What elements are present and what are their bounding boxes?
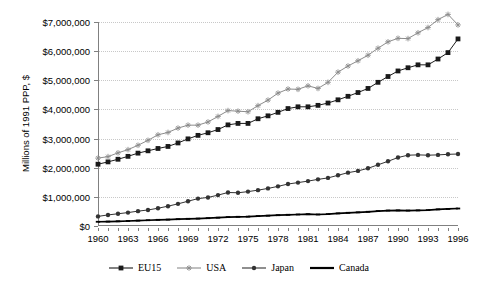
- data-point-marker: [406, 153, 410, 157]
- data-point-marker: [365, 52, 371, 58]
- data-point-marker: [286, 214, 290, 216]
- data-point-marker: [266, 113, 271, 118]
- x-axis-tick-mark: [258, 228, 259, 231]
- data-point-marker: [156, 146, 161, 151]
- data-point-marker: [185, 122, 191, 128]
- data-point-marker: [295, 87, 301, 93]
- data-point-marker: [325, 80, 331, 86]
- x-axis-tick-mark: [218, 228, 219, 231]
- data-point-marker: [306, 104, 311, 109]
- x-axis-tick-mark: [378, 228, 379, 231]
- x-axis-tick-mark: [368, 228, 369, 231]
- data-point-marker: [315, 86, 321, 92]
- x-axis-tick-label: 1987: [357, 233, 378, 244]
- data-point-marker: [405, 36, 411, 42]
- x-axis-tick-mark: [338, 228, 339, 231]
- data-point-marker: [316, 214, 320, 216]
- data-point-marker: [176, 202, 180, 206]
- legend-item-japan[interactable]: Japan: [241, 262, 294, 273]
- x-axis-tick-mark: [358, 228, 359, 231]
- data-point-marker: [320, 267, 324, 269]
- data-point-marker: [305, 83, 311, 89]
- data-point-marker: [235, 108, 241, 114]
- data-point-marker: [356, 169, 360, 173]
- y-axis-tick-label: $6,000,000: [42, 46, 90, 57]
- series-line: [98, 39, 458, 164]
- x-axis-tick-label: 1966: [147, 233, 168, 244]
- data-point-marker: [96, 214, 100, 218]
- x-axis-tick-mark: [408, 228, 409, 231]
- y-axis-tick-label: $5,000,000: [42, 75, 90, 86]
- data-point-marker: [126, 220, 130, 222]
- data-point-marker: [245, 109, 251, 115]
- data-point-marker: [236, 216, 240, 218]
- data-point-marker: [186, 136, 191, 141]
- x-axis-tick-mark: [328, 228, 329, 231]
- data-point-marker: [116, 212, 120, 216]
- data-point-marker: [395, 36, 401, 42]
- data-point-marker: [119, 265, 124, 270]
- data-point-marker: [326, 176, 330, 180]
- data-point-marker: [146, 148, 151, 153]
- data-point-marker: [145, 138, 151, 144]
- x-axis-tick-mark: [418, 228, 419, 231]
- data-point-marker: [406, 210, 410, 212]
- x-axis-tick-mark: [288, 228, 289, 231]
- x-axis-tick-mark: [248, 228, 249, 231]
- data-point-marker: [146, 208, 150, 212]
- legend-item-eu15[interactable]: EU15: [108, 262, 161, 273]
- data-point-marker: [426, 209, 430, 211]
- data-point-marker: [236, 121, 241, 126]
- data-point-marker: [275, 90, 281, 96]
- x-axis-tick-mark: [128, 228, 129, 231]
- data-point-marker: [386, 159, 390, 163]
- data-point-marker: [346, 170, 350, 174]
- data-point-marker: [446, 152, 450, 156]
- legend-item-usa[interactable]: USA: [176, 262, 226, 273]
- x-axis-tick-mark: [178, 228, 179, 231]
- x-axis-tick-mark: [228, 228, 229, 231]
- data-point-marker: [276, 214, 280, 216]
- x-axis-tick-label: 1969: [177, 233, 198, 244]
- chart-container: Millions of 1991 PPP, $ $0$1,000,000$2,0…: [0, 0, 477, 294]
- data-point-marker: [366, 86, 371, 91]
- legend-swatch-circle-icon: [241, 263, 267, 273]
- data-point-marker: [105, 154, 111, 160]
- data-point-marker: [285, 86, 291, 92]
- data-point-marker: [186, 199, 190, 203]
- data-point-marker: [336, 213, 340, 215]
- y-axis-tick-mark: [94, 226, 98, 227]
- data-point-marker: [126, 154, 131, 159]
- data-point-marker: [116, 157, 121, 162]
- data-point-marker: [155, 132, 161, 138]
- x-axis-tick-mark: [388, 228, 389, 231]
- x-axis-tick-mark: [428, 228, 429, 231]
- data-point-marker: [186, 218, 190, 220]
- data-point-marker: [115, 150, 121, 156]
- x-axis-tick-mark: [138, 228, 139, 231]
- y-axis-tick-label: $2,000,000: [42, 162, 90, 173]
- data-point-marker: [416, 62, 421, 67]
- legend-label: EU15: [138, 262, 161, 273]
- data-point-marker: [196, 218, 200, 220]
- data-point-marker: [346, 94, 351, 99]
- data-point-marker: [166, 219, 170, 221]
- data-point-marker: [196, 133, 201, 138]
- data-point-marker: [266, 215, 270, 217]
- legend-label: USA: [206, 262, 226, 273]
- y-axis-tick-label: $7,000,000: [42, 17, 90, 28]
- data-point-marker: [326, 101, 331, 106]
- data-point-marker: [436, 57, 441, 62]
- data-point-marker: [366, 211, 370, 213]
- data-point-marker: [336, 173, 340, 177]
- legend-item-canada[interactable]: Canada: [309, 262, 369, 273]
- data-point-marker: [296, 104, 301, 109]
- data-point-marker: [206, 130, 211, 135]
- data-point-marker: [136, 151, 141, 156]
- data-point-marker: [216, 193, 220, 197]
- data-point-marker: [176, 218, 180, 220]
- data-point-marker: [355, 58, 361, 64]
- data-point-marker: [246, 189, 250, 193]
- data-point-marker: [296, 180, 300, 184]
- x-axis-tick-mark: [298, 228, 299, 231]
